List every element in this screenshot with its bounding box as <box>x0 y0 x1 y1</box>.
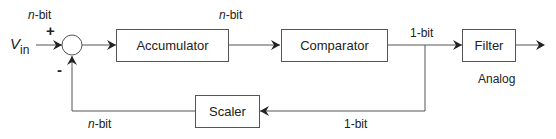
bit-suffix: -bit <box>95 117 112 131</box>
analog-output-label: Analog <box>478 72 515 86</box>
diagram-wires <box>0 0 556 139</box>
comparator-output-label: 1-bit <box>410 26 433 40</box>
accumulator-output-label: n-bit <box>219 8 242 22</box>
filter-block: Filter <box>462 29 516 62</box>
n-var: n <box>28 8 35 22</box>
accumulator-block: Accumulator <box>116 29 229 62</box>
scaler-label: Scaler <box>209 104 246 119</box>
comparator-block: Comparator <box>281 29 388 62</box>
filter-label: Filter <box>475 38 504 53</box>
accumulator-label: Accumulator <box>136 38 208 53</box>
comparator-label: Comparator <box>300 38 369 53</box>
summing-junction <box>62 35 82 55</box>
bit-suffix: -bit <box>35 8 52 22</box>
feedback-input-label: 1-bit <box>344 117 367 131</box>
scaler-block: Scaler <box>195 95 260 128</box>
bit-suffix: -bit <box>226 8 243 22</box>
input-subscript: in <box>20 43 29 57</box>
n-var: n <box>88 117 95 131</box>
plus-sign: + <box>46 22 55 39</box>
minus-sign: - <box>57 61 62 78</box>
input-symbol: V <box>10 35 20 52</box>
n-var: n <box>219 8 226 22</box>
input-label: Vin <box>10 35 29 52</box>
feedback-output-label: n-bit <box>88 117 111 131</box>
input-width-label: n-bit <box>28 8 51 22</box>
